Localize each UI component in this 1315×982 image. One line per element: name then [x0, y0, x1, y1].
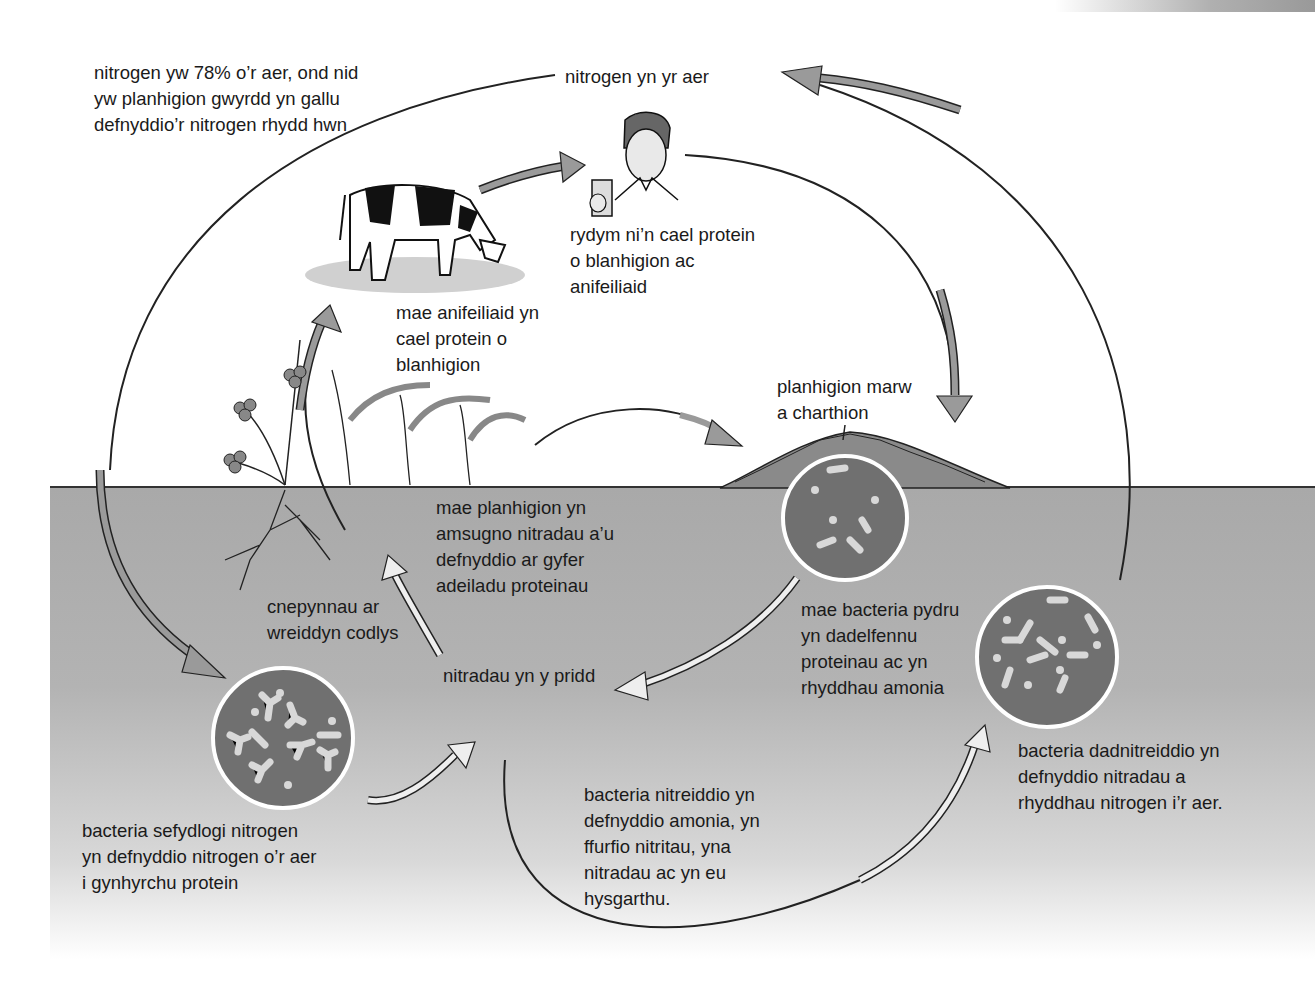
bacteria-disc-nitrogen-fixing [213, 668, 353, 808]
arrow-fixing-to-nitrates [368, 742, 475, 801]
arrow-decomposers-to-nitrates [615, 578, 797, 700]
label-decomposers: mae bacteria pydru yn dadelfennu protein… [801, 597, 959, 701]
label-air-nitrogen: nitrogen yn yr aer [565, 64, 709, 90]
person-with-glass-icon [590, 112, 678, 216]
bacteria-disc-denitrifying [977, 587, 1117, 727]
arrow-cow-to-human [480, 152, 585, 190]
rice-plant-icon [332, 370, 525, 485]
label-animals: mae anifeiliaid yn cael protein o blanhi… [396, 300, 539, 378]
label-plants-absorb: mae planhigion yn amsugno nitradau a’u d… [436, 495, 614, 599]
label-dead-matter: planhigion marw a charthion [777, 374, 912, 426]
nitrogen-cycle-diagram: nitrogen yw 78% o’r aer, ond nid yw plan… [0, 0, 1315, 982]
arrow-plants-to-dead-matter [535, 409, 742, 446]
clover-plant-icon [224, 340, 330, 590]
label-nitrifying: bacteria nitreiddio yn defnyddio amonia,… [584, 782, 760, 912]
bacteria-disc-decomposers [783, 456, 907, 580]
cow-illustration [305, 185, 525, 293]
label-root-nodules: cnepynnau ar wreiddyn codlys [267, 594, 399, 646]
arrow-plants-to-animals [300, 305, 345, 530]
label-air-fact: nitrogen yw 78% o’r aer, ond nid yw plan… [94, 60, 358, 138]
label-humans: rydym ni’n cael protein o blanhigion ac … [570, 222, 755, 300]
label-nitrogen-fixing: bacteria sefydlogi nitrogen yn defnyddio… [82, 818, 316, 896]
label-denitrifying: bacteria dadnitreiddio yn defnyddio nitr… [1018, 738, 1223, 816]
label-soil-nitrates: nitradau yn y pridd [443, 663, 595, 689]
